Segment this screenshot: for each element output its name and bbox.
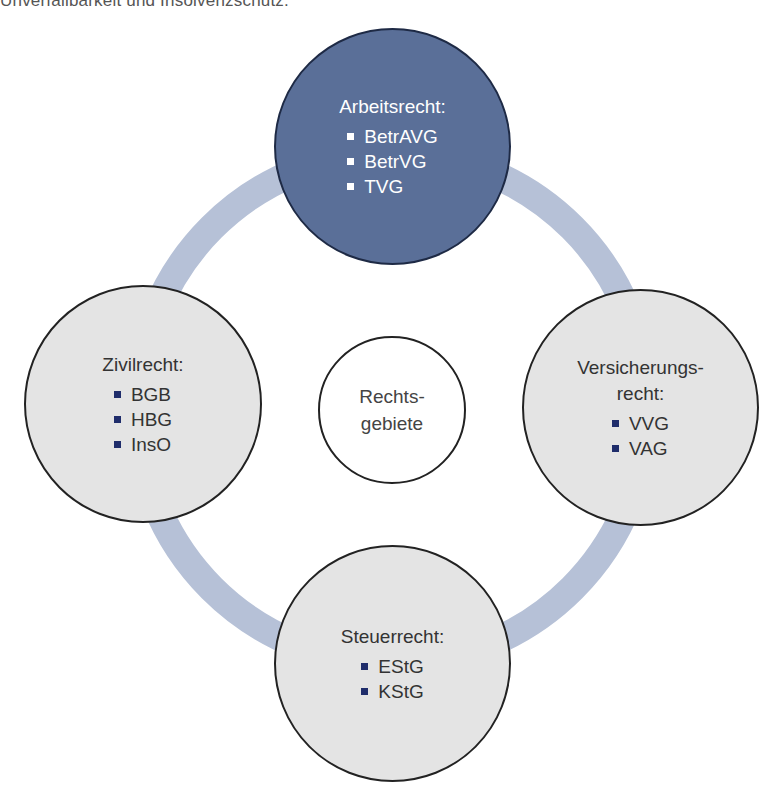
node-title: Arbeitsrecht: [339,94,446,120]
node-versicherungsrecht: Versicherungs- recht: VVG VAG [522,289,759,526]
list-item: TVG [347,174,438,199]
node-title: Steuerrecht: [341,624,445,650]
list-item: VVG [612,411,669,436]
square-bullet-icon [361,688,368,695]
node-center-rechtsgebiete: Rechts- gebiete [318,336,466,484]
square-bullet-icon [114,391,121,398]
list-item: HBG [114,407,172,432]
law-list: VVG VAG [612,411,669,461]
law-list: EStG KStG [361,654,423,704]
square-bullet-icon [361,663,368,670]
square-bullet-icon [114,416,121,423]
node-title: Zivilrecht: [102,352,183,378]
list-item: EStG [361,654,423,679]
square-bullet-icon [347,133,354,140]
node-title-line1: Versicherungs- [577,355,704,381]
square-bullet-icon [114,441,121,448]
node-zivilrecht: Zivilrecht: BGB HBG InsO [24,285,262,523]
square-bullet-icon [612,445,619,452]
center-label-line2: gebiete [361,410,423,437]
node-steuerrecht: Steuerrecht: EStG KStG [274,545,511,782]
list-item: KStG [361,679,423,704]
law-list: BetrAVG BetrVG TVG [347,124,438,199]
list-item: BetrAVG [347,124,438,149]
node-title-line2: recht: [617,381,665,407]
list-item: InsO [114,432,172,457]
square-bullet-icon [347,183,354,190]
list-item: BetrVG [347,149,438,174]
list-item: BGB [114,382,172,407]
list-item: VAG [612,436,669,461]
square-bullet-icon [612,420,619,427]
square-bullet-icon [347,158,354,165]
law-list: BGB HBG InsO [114,382,172,457]
center-label-line1: Rechts- [359,383,424,410]
node-arbeitsrecht: Arbeitsrecht: BetrAVG BetrVG TVG [274,28,511,265]
